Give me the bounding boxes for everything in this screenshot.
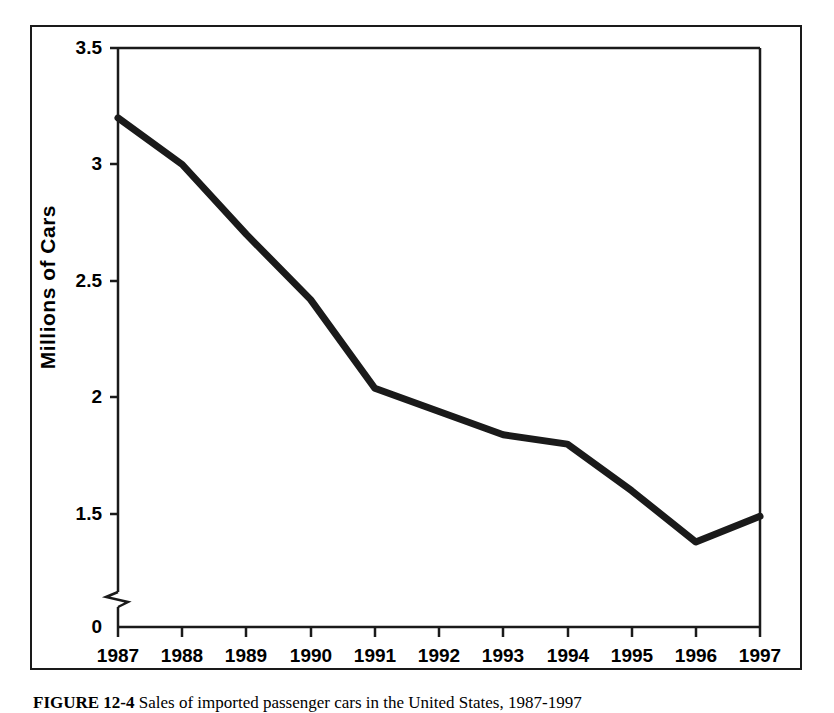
- x-tick-label-1997: 1997: [739, 645, 781, 667]
- x-tick-label-1990: 1990: [290, 645, 332, 667]
- y-tick-label-0: 0: [52, 616, 102, 638]
- y-tick-label-3_5: 3.5: [52, 37, 102, 59]
- x-tick-label-1988: 1988: [161, 645, 203, 667]
- axis-break-marker: [106, 592, 128, 607]
- x-tick-label-1993: 1993: [482, 645, 524, 667]
- x-tick-label-1994: 1994: [547, 645, 589, 667]
- chart-axes: [118, 48, 760, 627]
- x-tick-label-1987: 1987: [97, 645, 139, 667]
- x-tick-label-1996: 1996: [675, 645, 717, 667]
- line-chart: [0, 0, 834, 713]
- y-axis-title: Millions of Cars: [36, 205, 62, 369]
- y-tick-label-3: 3: [52, 153, 102, 175]
- y-tick-label-1_5: 1.5: [52, 503, 102, 525]
- figure-caption-label: FIGURE 12-4: [33, 693, 135, 712]
- data-series-line: [118, 118, 760, 542]
- x-tick-label-1991: 1991: [354, 645, 396, 667]
- x-tick-label-1992: 1992: [418, 645, 460, 667]
- figure-caption: FIGURE 12-4 Sales of imported passenger …: [33, 692, 813, 713]
- x-tick-label-1995: 1995: [611, 645, 653, 667]
- x-axis-ticks: [118, 627, 760, 637]
- y-tick-label-2: 2: [52, 386, 102, 408]
- x-tick-label-1989: 1989: [225, 645, 267, 667]
- figure-caption-text: Sales of imported passenger cars in the …: [139, 693, 582, 712]
